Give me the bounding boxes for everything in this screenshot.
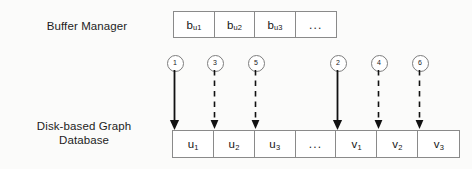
disk-database-label-line1: Disk-based Graph [8,119,160,133]
step-arrow-5-dashed [250,70,261,130]
buffer-page-ellipsis: ... [309,18,323,32]
step-arrow-4-dashed [373,70,384,130]
disk-page-cell-subscript: 2 [398,143,402,152]
buffer-page-cell-subscript: u1 [193,23,201,32]
disk-page-cell-base: u [269,138,275,150]
buffer-manager-label: Buffer Manager [14,19,160,33]
step-arrow-2-solid [332,70,343,130]
buffer-page-cell-base: b [186,19,192,31]
buffer-page-cell: bu1 [174,12,215,37]
disk-page-cell: u3 [255,131,296,157]
buffer-page-cell-subscript: u2 [234,23,242,32]
buffer-page-cell: bu2 [215,12,256,37]
disk-database-label: Disk-based Graph Database [8,119,160,147]
disk-page-cell: v2 [377,131,418,157]
disk-page-cell: u2 [214,131,255,157]
disk-database-label-line2: Database [8,133,160,147]
buffer-manager-row: bu1bu2bu3... [173,11,337,38]
buffer-page-cell-base: b [267,19,273,31]
disk-page-cell-base: v [392,138,398,150]
graph-buffer-diagram: Buffer Manager Disk-based Graph Database… [0,0,472,169]
disk-page-cell-subscript: 1 [357,143,361,152]
buffer-page-cell: bu3 [255,12,296,37]
disk-graph-database-row: u1u2u3...v1v2v3 [172,130,460,158]
disk-page-cell-base: v [434,138,440,150]
disk-page-cell-base: u [188,138,194,150]
step-arrow-6-dashed [414,70,425,130]
disk-page-cell-base: v [351,138,357,150]
buffer-page-cell-subscript: u3 [274,23,282,32]
buffer-page-cell-base: b [227,19,233,31]
disk-page-cell-base: u [229,138,235,150]
disk-page-ellipsis: ... [309,137,323,151]
buffer-page-cell: ... [296,12,336,37]
buffer-manager-label-text: Buffer Manager [47,20,127,32]
disk-page-cell-subscript: 3 [440,143,444,152]
disk-page-cell-subscript: 3 [276,143,280,152]
disk-page-cell: v1 [336,131,377,157]
disk-page-cell-subscript: 1 [194,143,198,152]
disk-page-cell: u1 [173,131,214,157]
step-arrow-3-dashed [209,70,220,130]
step-arrow-1-solid [169,70,180,130]
disk-page-cell: v3 [418,131,459,157]
disk-page-cell-subscript: 2 [235,143,239,152]
disk-page-cell: ... [296,131,337,157]
